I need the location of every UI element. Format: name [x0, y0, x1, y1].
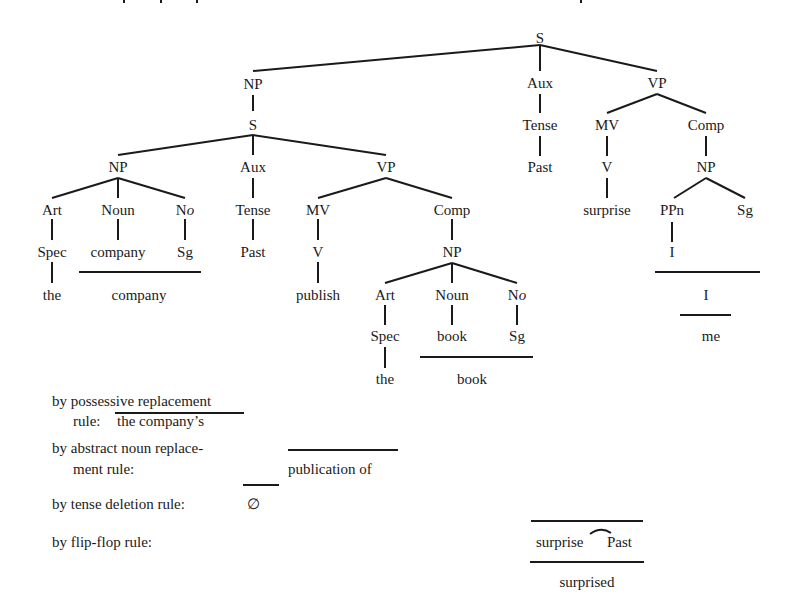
node-emb-no: No	[176, 202, 195, 218]
tree-diagram: S NP S NP Art Noun No Spec company Sg th…	[0, 0, 794, 614]
node-emb-np: NP	[108, 159, 127, 175]
node-emb-mv: MV	[306, 202, 330, 218]
node-main-v: V	[602, 159, 613, 175]
node-obj-spec: Spec	[370, 328, 400, 344]
rule-flipflop-word1: surprise	[536, 534, 584, 550]
node-main-sg: Sg	[737, 202, 753, 218]
node-main-me: me	[702, 328, 721, 344]
rule-flipflop-word2: Past	[607, 534, 633, 550]
node-main-aux: Aux	[527, 75, 553, 91]
node-root-s: S	[536, 30, 544, 46]
cropped-title-remnant	[123, 0, 582, 3]
node-main-ppn: PPn	[660, 202, 685, 218]
node-obj-np: NP	[442, 244, 461, 260]
node-main-vp: VP	[647, 75, 666, 91]
rule-possessive-result: the company’s	[117, 413, 204, 429]
node-obj-no: No	[508, 287, 527, 303]
node-main-surprise: surprise	[583, 202, 631, 218]
rule-possessive-label-2: rule:	[73, 413, 101, 429]
node-emb-tense: Tense	[236, 202, 271, 218]
node-obj-noun: Noun	[435, 287, 469, 303]
node-emb-the: the	[43, 287, 62, 303]
rule-abstract-result: publication of	[288, 461, 372, 477]
node-obj-book: book	[437, 328, 468, 344]
rule-tense-label: by tense deletion rule:	[52, 496, 185, 512]
node-emb-aux: Aux	[240, 159, 266, 175]
node-subject-np: NP	[243, 76, 262, 92]
rule-abstract-label-2: ment rule:	[73, 461, 134, 477]
node-emb-comp: Comp	[434, 202, 471, 218]
node-obj-book-out: book	[457, 371, 488, 387]
node-embedded-s: S	[249, 117, 257, 133]
tree-edges	[52, 45, 745, 368]
rule-flipflop-label: by flip-flop rule:	[52, 534, 152, 550]
node-emb-noun: Noun	[101, 202, 135, 218]
node-main-i: I	[670, 244, 675, 260]
node-main-comp: Comp	[688, 117, 725, 133]
rule-possessive-label-1: by possessive replacement	[52, 393, 212, 409]
node-obj-sg: Sg	[509, 328, 525, 344]
node-emb-art: Art	[42, 202, 63, 218]
node-emb-company: company	[91, 244, 146, 260]
node-main-np: NP	[696, 159, 715, 175]
node-emb-publish: publish	[296, 287, 341, 303]
node-main-mv: MV	[595, 117, 619, 133]
node-obj-art: Art	[375, 287, 396, 303]
rule-flipflop-result: surprised	[560, 574, 615, 590]
node-emb-vp: VP	[376, 159, 395, 175]
node-main-tense: Tense	[523, 117, 558, 133]
node-main-past: Past	[527, 159, 553, 175]
node-emb-company-out: company	[112, 287, 167, 303]
rule-tense-result: ∅	[247, 496, 260, 512]
node-main-i-out: I	[704, 287, 709, 303]
rule-abstract-label-1: by abstract noun replace-	[52, 440, 203, 456]
node-emb-v: V	[313, 244, 324, 260]
node-emb-past: Past	[240, 244, 266, 260]
node-emb-spec: Spec	[37, 244, 67, 260]
node-obj-the: the	[376, 371, 395, 387]
node-emb-sg: Sg	[177, 244, 193, 260]
